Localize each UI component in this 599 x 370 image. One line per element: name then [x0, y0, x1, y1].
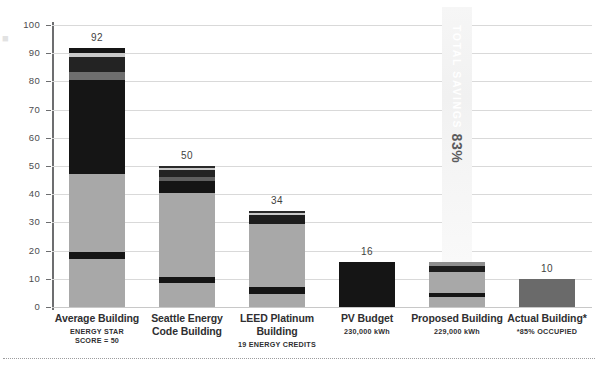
y-axis-label: 40	[8, 188, 40, 199]
plot-area: 92503416TOTAL SAVINGS 83%10	[52, 25, 592, 307]
y-axis-tick	[46, 279, 51, 280]
y-axis-tick	[46, 81, 51, 82]
y-axis-tick	[46, 166, 51, 167]
y-axis-tick	[46, 53, 51, 54]
bar-value-label: 16	[361, 246, 373, 257]
bottom-dotted-rule	[3, 358, 595, 359]
y-axis-label: 50	[8, 160, 40, 171]
bar-segment	[69, 174, 125, 252]
bar-pv-budget[interactable]	[339, 262, 395, 307]
category-labels: Average BuildingENERGY STARSCORE = 50Sea…	[52, 312, 592, 362]
bar-segment	[159, 181, 215, 192]
gridline	[52, 307, 592, 308]
bar-segment	[249, 294, 305, 307]
category-label-5: Actual Building**85% OCCUPIED	[492, 312, 599, 336]
y-axis-label: 60	[8, 132, 40, 143]
bar-segment	[69, 57, 125, 71]
y-axis-tick	[46, 222, 51, 223]
y-axis-label: 0	[8, 301, 40, 312]
y-axis-tick	[46, 25, 51, 26]
category-subtitle: *85% OCCUPIED	[492, 327, 599, 336]
bar-average-building[interactable]	[69, 48, 125, 307]
bar-value-label: 34	[271, 195, 283, 206]
bar-seattle-energy-code-building[interactable]	[159, 166, 215, 307]
bar-segment	[159, 170, 215, 177]
y-axis-tick	[46, 138, 51, 139]
bar-leed-platinum-building[interactable]	[249, 211, 305, 307]
bar-segment	[339, 262, 395, 307]
total-savings-label: TOTAL SAVINGS 83%	[449, 25, 465, 163]
y-axis-tick	[46, 307, 51, 308]
y-axis-tick	[46, 110, 51, 111]
bar-segment	[249, 287, 305, 294]
chart-root: ■ 1009080706050403020100 92503416TOTAL S…	[0, 0, 599, 370]
bar-value-label: 10	[541, 263, 553, 274]
y-axis-label: 70	[8, 104, 40, 115]
bar-segment	[249, 215, 305, 223]
bar-segment	[429, 272, 485, 293]
category-subtitle: 19 ENERGY CREDITS	[222, 340, 332, 349]
bar-segment	[159, 193, 215, 278]
bar-value-label: 50	[181, 150, 193, 161]
bar-segment	[69, 80, 125, 174]
y-axis-label: 100	[8, 19, 40, 30]
bar-segment	[249, 224, 305, 287]
y-axis-label: 20	[8, 245, 40, 256]
y-axis-tick	[46, 194, 51, 195]
bar-segment	[69, 259, 125, 307]
y-axis-label: 10	[8, 273, 40, 284]
y-axis-label: 90	[8, 47, 40, 58]
bar-value-label: 92	[91, 32, 103, 43]
total-savings-percent: 83%	[449, 134, 465, 164]
y-axis-tick	[46, 251, 51, 252]
bar-segment	[69, 252, 125, 259]
bar-segment	[429, 297, 485, 307]
category-title: Actual Building*	[492, 312, 599, 325]
edge-mark-icon: ■	[2, 33, 9, 43]
y-axis-label: 30	[8, 216, 40, 227]
bar-segment	[69, 72, 125, 80]
bar-segment	[519, 279, 575, 307]
y-axis-label: 80	[8, 75, 40, 86]
bar-proposed-building[interactable]	[429, 262, 485, 307]
bar-segment	[159, 283, 215, 307]
bar-actual-building[interactable]	[519, 279, 575, 307]
